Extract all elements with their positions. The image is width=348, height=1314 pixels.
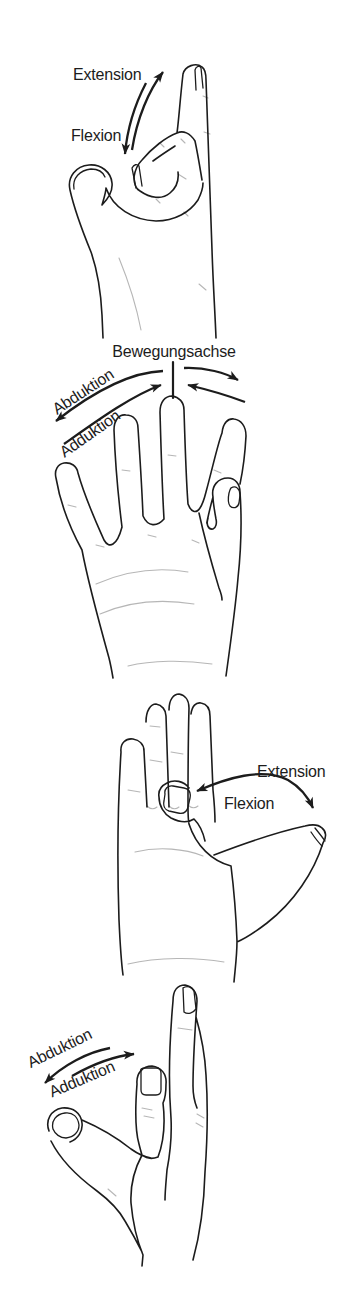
flexion-label: Flexion xyxy=(71,127,121,144)
book-figure-page: Extension Flexion Bewegungsachse Abdukti… xyxy=(0,0,348,1314)
paper-background xyxy=(0,0,348,1314)
flexion-label: Flexion xyxy=(224,795,274,812)
extension-label: Extension xyxy=(73,66,141,83)
extension-label: Extension xyxy=(257,763,325,780)
movement-axis-label: Bewegungsachse xyxy=(112,343,236,360)
hand-movement-diagram: Extension Flexion Bewegungsachse Abdukti… xyxy=(0,0,348,1314)
